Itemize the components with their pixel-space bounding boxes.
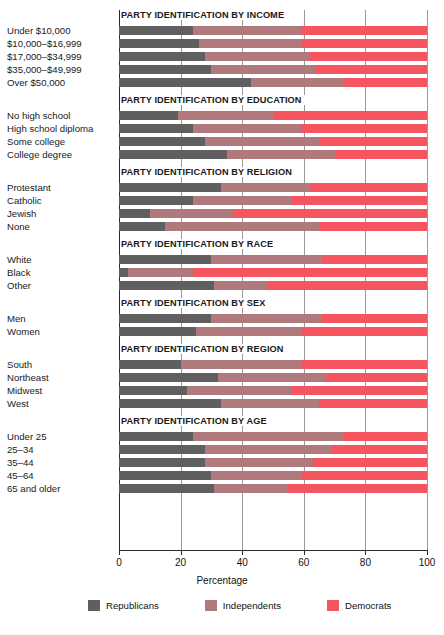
legend-label-republicans: Republicans <box>106 600 159 611</box>
bar-segment-republicans <box>119 281 214 290</box>
bar-segment-republicans <box>119 26 193 35</box>
bar-segment-democrats <box>322 255 427 264</box>
bar-segment-republicans <box>119 399 221 408</box>
bar-segment-republicans <box>119 111 178 120</box>
bar-segment-democrats <box>291 386 427 395</box>
legend-item-republicans: Republicans <box>88 600 159 611</box>
bar-segment-independents <box>128 268 193 277</box>
chart-legend: Republicans Independents Democrats <box>88 600 418 611</box>
x-tick-label-100: 100 <box>419 557 436 568</box>
bar-row <box>119 150 427 159</box>
bar-segment-independents <box>211 255 322 264</box>
category-label: Women <box>7 326 117 337</box>
bar-segment-democrats <box>233 209 427 218</box>
bar-segment-independents <box>211 65 316 74</box>
category-label: Men <box>7 313 117 324</box>
x-tick-label-0: 0 <box>116 557 122 568</box>
panel-title-2: PARTY IDENTIFICATION BY RELIGION <box>121 167 295 177</box>
bar-segment-democrats <box>301 327 427 336</box>
bar-segment-independents <box>251 78 343 87</box>
bar-segment-republicans <box>119 445 205 454</box>
category-label: Over $50,000 <box>7 77 117 88</box>
bar-segment-democrats <box>335 150 427 159</box>
bar-segment-independents <box>181 360 301 369</box>
bar-segment-republicans <box>119 255 211 264</box>
bar-row <box>119 52 427 61</box>
bar-segment-republicans <box>119 222 165 231</box>
bar-segment-democrats <box>332 445 427 454</box>
bar-segment-independents <box>199 39 301 48</box>
bar-segment-republicans <box>119 183 221 192</box>
bar-segment-republicans <box>119 327 196 336</box>
bar-row <box>119 196 427 205</box>
bar-segment-democrats <box>273 111 427 120</box>
bar-segment-democrats <box>310 183 427 192</box>
bar-segment-independents <box>205 445 331 454</box>
category-label: West <box>7 398 117 409</box>
bar-segment-independents <box>165 222 319 231</box>
category-label: Some college <box>7 136 117 147</box>
bar-segment-democrats <box>319 399 427 408</box>
category-label: Other <box>7 280 117 291</box>
bar-row <box>119 255 427 264</box>
bar-segment-republicans <box>119 78 251 87</box>
bar-segment-republicans <box>119 268 128 277</box>
category-label: 45–64 <box>7 470 117 481</box>
bar-segment-independents <box>193 196 292 205</box>
bar-segment-republicans <box>119 65 211 74</box>
legend-item-independents: Independents <box>205 600 281 611</box>
bar-row <box>119 65 427 74</box>
bar-segment-republicans <box>119 314 211 323</box>
bar-row <box>119 222 427 231</box>
bar-segment-republicans <box>119 471 211 480</box>
category-label: Northeast <box>7 372 117 383</box>
bar-segment-democrats <box>301 39 427 48</box>
bar-segment-independents <box>211 314 322 323</box>
bar-segment-republicans <box>119 373 218 382</box>
bar-segment-independents <box>205 137 319 146</box>
bar-row <box>119 386 427 395</box>
bar-row <box>119 458 427 467</box>
bar-row <box>119 111 427 120</box>
bar-segment-democrats <box>301 26 427 35</box>
bar-row <box>119 484 427 493</box>
bar-row <box>119 137 427 146</box>
category-label: Black <box>7 267 117 278</box>
plot-area <box>119 10 427 550</box>
legend-swatch-republicans <box>88 600 100 611</box>
bar-row <box>119 360 427 369</box>
category-label: $10,000–$16,999 <box>7 38 117 49</box>
legend-swatch-democrats <box>327 600 339 611</box>
gridline-60 <box>304 10 305 550</box>
bar-segment-democrats <box>344 432 427 441</box>
bar-segment-independents <box>221 399 320 408</box>
bar-segment-democrats <box>267 281 427 290</box>
x-tick-label-20: 20 <box>175 557 186 568</box>
category-label: Jewish <box>7 208 117 219</box>
x-tick-60 <box>304 550 305 555</box>
bar-segment-independents <box>150 209 233 218</box>
bar-segment-democrats <box>322 314 427 323</box>
category-label: 25–34 <box>7 444 117 455</box>
bar-row <box>119 399 427 408</box>
bar-segment-democrats <box>344 78 427 87</box>
category-label: South <box>7 359 117 370</box>
bar-segment-independents <box>221 183 310 192</box>
bar-segment-democrats <box>319 137 427 146</box>
bar-segment-independents <box>196 327 301 336</box>
panel-title-1: PARTY IDENTIFICATION BY EDUCATION <box>121 95 305 105</box>
bar-row <box>119 26 427 35</box>
x-tick-20 <box>181 550 182 555</box>
bar-row <box>119 314 427 323</box>
bar-segment-independents <box>214 281 266 290</box>
category-label: College degree <box>7 149 117 160</box>
bar-segment-democrats <box>316 65 427 74</box>
bar-row <box>119 124 427 133</box>
bar-segment-democrats <box>301 124 427 133</box>
x-tick-80 <box>365 550 366 555</box>
bar-segment-democrats <box>301 471 427 480</box>
bar-row <box>119 373 427 382</box>
x-tick-label-40: 40 <box>237 557 248 568</box>
category-label: Under $10,000 <box>7 25 117 36</box>
x-axis-line <box>119 550 427 551</box>
